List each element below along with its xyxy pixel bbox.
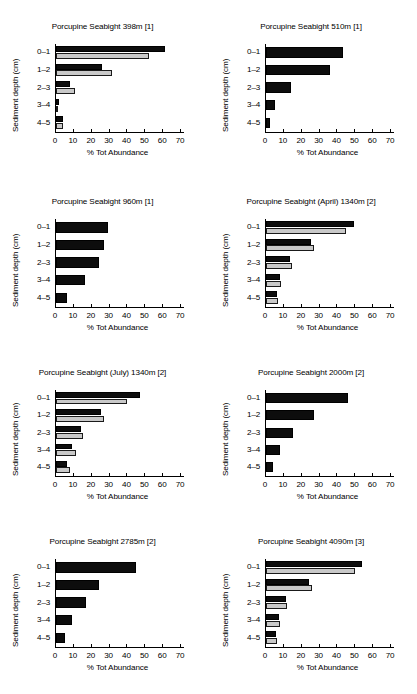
y-tick-label: 1–2 [238,580,260,589]
chart-panel: Porcupine Seabight (July) 1340m [2]Sedim… [0,348,207,515]
y-tick-label: 4–5 [28,118,50,127]
bar [56,222,108,232]
bar [56,467,70,473]
plot-area [265,44,390,132]
x-tick-mark [55,304,56,308]
x-tick-label: 70 [381,136,399,145]
x-tick-label: 20 [82,480,100,489]
bar [56,64,102,70]
x-axis-label: % Tot Abundance [255,148,400,157]
x-tick-label: 40 [327,311,345,320]
y-tick-label: 3–4 [28,275,50,284]
x-tick-label: 60 [153,651,171,660]
x-tick-mark [180,129,181,133]
bar [56,615,72,625]
y-tick-label: 2–3 [238,598,260,607]
chart-panel: Porcupine Seabight 960m [1]Sediment dept… [0,175,207,348]
bar [56,106,58,112]
x-tick-label: 20 [292,651,310,660]
x-tick-label: 10 [64,311,82,320]
y-tick-label: 1–2 [28,580,50,589]
x-tick-label: 10 [274,480,292,489]
bar [56,46,165,52]
x-tick-label: 50 [345,311,363,320]
x-tick-mark [55,473,56,477]
x-axis-line [265,307,394,308]
x-tick-mark [372,644,373,648]
x-tick-mark [126,644,127,648]
bar [266,298,278,304]
x-tick-label: 60 [153,311,171,320]
bar [266,245,314,251]
x-tick-label: 50 [135,480,153,489]
bar [266,428,293,438]
x-tick-label: 30 [310,136,328,145]
bar [56,444,72,450]
x-tick-mark [73,473,74,477]
y-tick-label: 0–1 [28,393,50,402]
bar [266,638,277,644]
y-tick-label: 2–3 [238,428,260,437]
bar [56,633,65,643]
x-tick-label: 30 [100,480,118,489]
bar [56,580,99,590]
x-tick-label: 50 [135,311,153,320]
x-tick-mark [265,304,266,308]
x-tick-label: 40 [117,136,135,145]
x-tick-label: 20 [292,136,310,145]
x-tick-label: 40 [117,651,135,660]
bar [266,65,330,75]
x-axis-line [55,132,184,133]
x-tick-label: 0 [256,480,274,489]
x-tick-mark [354,473,355,477]
y-tick-label: 4–5 [28,293,50,302]
x-tick-label: 60 [363,311,381,320]
x-tick-mark [180,304,181,308]
x-tick-label: 10 [64,136,82,145]
x-tick-mark [301,129,302,133]
x-tick-label: 70 [171,651,189,660]
x-tick-label: 60 [363,651,381,660]
bar [266,393,348,403]
x-tick-mark [126,129,127,133]
figure-panel-grid: Porcupine Seabight 398m [1]Sediment dept… [0,0,417,694]
x-tick-mark [144,304,145,308]
x-tick-mark [162,473,163,477]
x-tick-label: 60 [363,136,381,145]
plot-area [55,390,180,476]
bar [56,275,85,285]
plot-area [265,559,390,647]
y-tick-label: 4–5 [238,118,260,127]
y-axis-label: Sediment depth (cm) [11,234,20,307]
x-tick-mark [55,644,56,648]
x-tick-label: 40 [327,651,345,660]
x-tick-label: 50 [135,136,153,145]
bar [266,561,362,567]
plot-area [55,219,180,307]
x-tick-label: 50 [345,480,363,489]
x-tick-label: 0 [46,136,64,145]
x-tick-mark [283,473,284,477]
x-tick-mark [109,473,110,477]
x-tick-mark [354,644,355,648]
bar [266,585,312,591]
x-tick-mark [319,644,320,648]
y-tick-label: 1–2 [28,410,50,419]
panel-title: Porcupine Seabight 398m [1] [0,22,205,31]
bar [266,228,346,234]
x-tick-mark [319,304,320,308]
y-tick-label: 3–4 [28,615,50,624]
x-tick-mark [301,644,302,648]
bar [266,118,270,128]
bar [266,256,290,262]
x-tick-mark [73,129,74,133]
chart-panel: Porcupine Seabight 4090m [3]Sediment dep… [207,515,417,694]
bar [266,410,314,420]
x-tick-label: 10 [274,311,292,320]
x-tick-label: 60 [153,480,171,489]
x-tick-mark [372,473,373,477]
y-tick-label: 0–1 [238,222,260,231]
plot-area [265,219,390,307]
y-tick-label: 2–3 [238,83,260,92]
panel-title: Porcupine Seabight 2000m [2] [207,368,415,377]
